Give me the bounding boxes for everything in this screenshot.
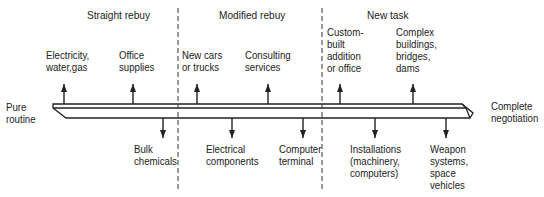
arrow-down-bulk-chemicals: [160, 118, 166, 138]
arrow-up-custom-built: [337, 84, 343, 104]
item-installations: Installations (machinery, computers): [350, 143, 401, 179]
item-new-cars-or-trucks: New cars or trucks: [182, 49, 222, 73]
arrow-down-weapon-systems: [443, 118, 449, 138]
arrow-down-installations: [372, 118, 378, 138]
arrow-up-office-supplies: [130, 84, 136, 104]
category-header-straight-rebuy: Straight rebuy: [87, 9, 150, 21]
category-header-new-task: New task: [367, 9, 409, 21]
arrow-head: [443, 130, 449, 138]
arrow-head: [229, 130, 235, 138]
item-consulting-services: Consulting services: [245, 49, 291, 73]
arrow-down-electrical-components: [229, 118, 235, 138]
item-electricity-water-gas: Electricity, water,gas: [46, 49, 89, 73]
arrow-head: [300, 130, 306, 138]
arrow-head: [337, 84, 343, 92]
continuum-right-label: Complete negotiation: [491, 100, 538, 124]
arrow-down-computer-terminal: [300, 118, 306, 138]
item-office-supplies: Office supplies: [119, 49, 154, 73]
arrow-head: [194, 84, 200, 92]
category-header-modified-rebuy: Modified rebuy: [219, 9, 285, 21]
arrow-up-new-cars: [194, 84, 200, 104]
continuum-left-label: Pure routine: [6, 101, 36, 125]
arrow-head: [372, 130, 378, 138]
item-complex-buildings: Complex buildings, bridges, dams: [396, 26, 437, 74]
arrow-head: [130, 84, 136, 92]
item-bulk-chemicals: Bulk chemicals: [134, 143, 177, 167]
arrow-up-complex-buildings: [410, 84, 416, 104]
item-electrical-components: Electrical components: [206, 143, 259, 167]
continuum-bar: [53, 104, 473, 118]
arrow-up-consulting: [265, 84, 271, 104]
arrow-head: [160, 130, 166, 138]
arrow-head: [265, 84, 271, 92]
item-custom-built-addition: Custom- built addition or office: [327, 26, 364, 74]
buying-situation-continuum-diagram: Straight rebuy Modified rebuy New task P…: [0, 0, 544, 197]
arrow-head: [61, 84, 67, 92]
item-computer-terminal: Computer terminal: [279, 143, 321, 167]
arrow-up-electricity: [61, 84, 67, 104]
continuum-bar-body: [53, 104, 473, 118]
item-weapon-systems: Weapon systems, space vehicles: [430, 143, 468, 191]
arrow-head: [410, 84, 416, 92]
